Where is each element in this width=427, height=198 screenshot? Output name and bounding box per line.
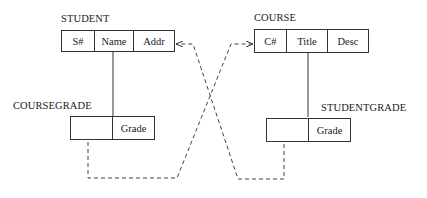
student-relation-box: S# Name Addr <box>61 30 175 52</box>
studentgrade-relation-box: Grade <box>266 118 351 142</box>
course-relation-box: C# Title Desc <box>254 29 369 53</box>
studentgrade-attr-grade: Grade <box>309 119 350 141</box>
course-attr-c-number: C# <box>255 30 287 52</box>
student-attr-addr: Addr <box>134 31 174 51</box>
studentgrade-to-student-dashed-arrow <box>176 44 284 179</box>
course-attr-desc: Desc <box>328 30 368 52</box>
studentgrade-relation-title: STUDENTGRADE <box>321 102 406 113</box>
coursegrade-attr-key <box>71 117 113 139</box>
coursegrade-relation-box: Grade <box>70 116 155 140</box>
coursegrade-attr-grade: Grade <box>113 117 154 139</box>
course-relation-title: COURSE <box>254 12 296 23</box>
student-attr-s-number: S# <box>62 31 95 51</box>
coursegrade-relation-title: COURSEGRADE <box>13 100 92 111</box>
course-attr-title: Title <box>287 30 328 52</box>
student-relation-title: STUDENT <box>61 13 110 24</box>
studentgrade-attr-key <box>267 119 309 141</box>
student-attr-name: Name <box>95 31 134 51</box>
